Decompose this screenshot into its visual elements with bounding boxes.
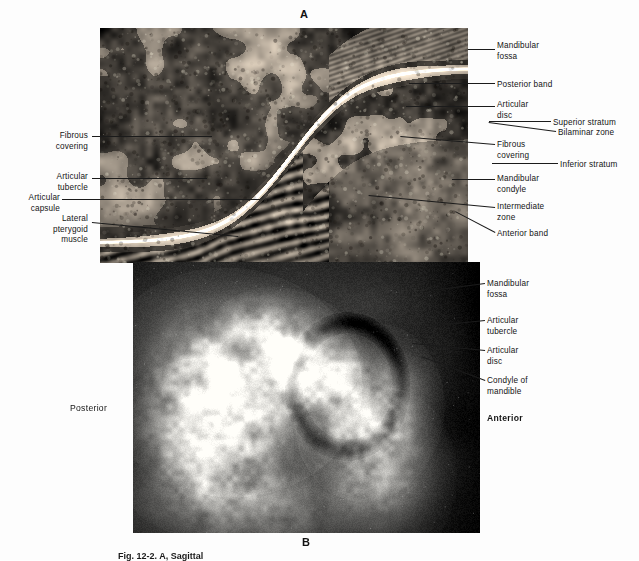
leader-line-10 (92, 136, 212, 137)
label-condyle-of-mandible-b: Condyle of mandible (487, 376, 597, 397)
panel-letter-b: B (302, 536, 310, 548)
label-orientation-posterior: Posterior (70, 403, 150, 414)
label-intermediate-zone: Intermediate zone (497, 202, 607, 223)
leader-line-2 (406, 106, 495, 107)
label-orientation-anterior: Anterior (487, 413, 567, 424)
leader-line-4 (489, 122, 556, 132)
panel-b-radiograph-image (133, 262, 480, 533)
label-articular-tubercle-b: Articular tubercle (487, 316, 597, 337)
label-inferior-stratum: Inferior stratum (560, 160, 639, 171)
leader-line-12 (62, 199, 260, 200)
radiograph-canvas (133, 262, 480, 533)
leader-line-11 (92, 178, 207, 179)
label-mandibular-condyle: Mandibular condyle (497, 174, 607, 195)
leader-line-7 (452, 179, 495, 180)
label-mandibular-fossa: Mandibular fossa (497, 41, 607, 62)
leader-line-6 (492, 163, 558, 164)
figure-caption: Fig. 12-2. A, Sagittal (118, 551, 203, 561)
panel-letter-a: A (300, 8, 308, 20)
label-lateral-pterygoid-muscle: Lateral pterygoid muscle (22, 214, 88, 246)
label-superior-stratum: Superior stratum (553, 118, 639, 129)
label-fibrous-covering-right: Fibrous covering (497, 140, 607, 161)
leader-line-0 (468, 49, 495, 50)
label-mandibular-fossa-b: Mandibular fossa (487, 279, 597, 300)
label-articular-capsule: Articular capsule (0, 193, 60, 214)
label-fibrous-covering-left: Fibrous covering (22, 131, 88, 152)
leader-line-3 (489, 121, 551, 122)
label-articular-disc-b: Articular disc (487, 346, 597, 367)
label-articular-tubercle-left: Articular tubercle (22, 172, 88, 193)
label-bilaminar-zone: Bilaminar zone (558, 128, 639, 139)
label-anterior-band: Anterior band (497, 229, 617, 240)
leader-line-1 (409, 83, 495, 84)
label-posterior-band: Posterior band (497, 80, 617, 91)
